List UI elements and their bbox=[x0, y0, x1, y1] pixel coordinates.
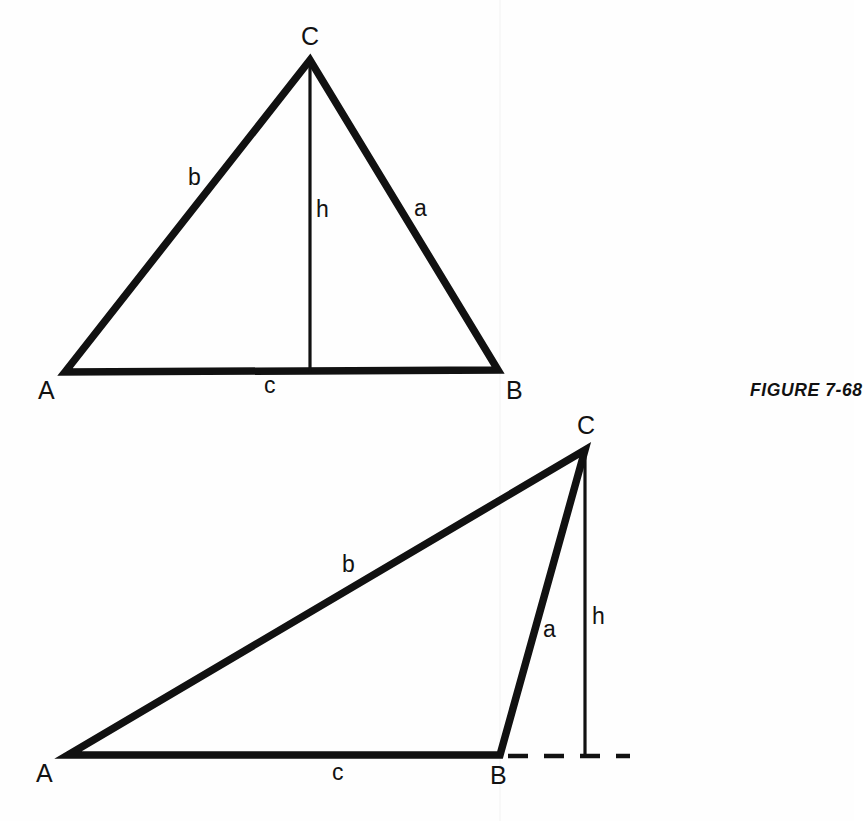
acute-triangle-diagram bbox=[65, 60, 498, 372]
obtuse-vertex-label-a: A bbox=[36, 761, 53, 786]
acute-side-label-b: b bbox=[188, 166, 201, 189]
acute-altitude-label-h: h bbox=[316, 198, 329, 221]
obtuse-side-label-a: a bbox=[543, 618, 556, 641]
acute-vertex-label-b: B bbox=[506, 378, 523, 403]
acute-side-label-a: a bbox=[414, 197, 427, 220]
acute-vertex-label-a: A bbox=[38, 378, 55, 403]
acute-triangle-outline bbox=[65, 60, 498, 372]
obtuse-vertex-label-b: B bbox=[490, 763, 507, 788]
obtuse-vertex-label-c: C bbox=[577, 413, 595, 438]
obtuse-triangle-diagram bbox=[68, 450, 630, 757]
obtuse-triangle-outline bbox=[68, 450, 585, 755]
obtuse-side-label-c: c bbox=[332, 761, 344, 784]
obtuse-altitude-label-h: h bbox=[592, 605, 605, 628]
figure-caption: FIGURE 7-68 bbox=[750, 380, 863, 401]
acute-side-label-c: c bbox=[264, 374, 276, 397]
obtuse-side-label-b: b bbox=[342, 553, 355, 576]
acute-vertex-label-c: C bbox=[301, 24, 319, 49]
